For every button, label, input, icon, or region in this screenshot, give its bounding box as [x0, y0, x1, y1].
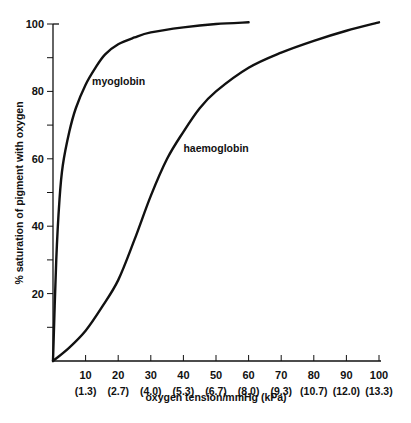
haemoglobin-curve [53, 22, 379, 361]
y-tick-label: 60 [32, 153, 44, 165]
x-tick-label: 70 [275, 369, 287, 381]
myoglobin-label: myoglobin [92, 75, 145, 87]
y-tick-label: 40 [32, 220, 44, 232]
x-tick-label-kpa: (1.3) [75, 385, 97, 397]
x-tick-label: 100 [370, 369, 388, 381]
x-tick-label-kpa: (2.7) [107, 385, 129, 397]
x-tick-label: 90 [340, 369, 352, 381]
x-tick-label: 60 [242, 369, 254, 381]
myoglobin-curve [53, 22, 249, 361]
x-tick-label: 80 [308, 369, 320, 381]
y-axis-title: % saturation of pigment with oxygen [13, 101, 25, 284]
curve-labels: myoglobinhaemoglobin [92, 75, 249, 154]
x-tick-label-kpa: (13.3) [365, 385, 392, 397]
x-tick-label-kpa: (10.7) [300, 385, 327, 397]
haemoglobin-label: haemoglobin [183, 142, 248, 154]
curves [53, 22, 379, 361]
x-tick-label: 30 [145, 369, 157, 381]
y-tick-label: 80 [32, 85, 44, 97]
y-axis-ticks: 20406080100 [26, 18, 53, 327]
x-axis-title: oxygen tension/mmHg (kPa) [145, 391, 286, 403]
y-tick-label: 20 [32, 288, 44, 300]
oxygen-dissociation-chart: 20406080100 10(1.3)20(2.7)30(4.0)40(5.3)… [0, 0, 411, 423]
x-tick-label: 40 [177, 369, 189, 381]
x-tick-label: 10 [79, 369, 91, 381]
x-tick-label: 50 [210, 369, 222, 381]
y-tick-label: 100 [26, 18, 44, 30]
x-tick-label-kpa: (12.0) [333, 385, 360, 397]
x-tick-label: 20 [112, 369, 124, 381]
